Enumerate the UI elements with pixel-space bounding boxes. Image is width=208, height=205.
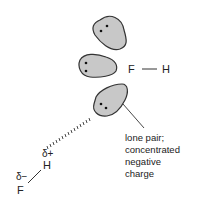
electron-dot bbox=[100, 103, 103, 106]
electron-dot bbox=[100, 30, 103, 33]
annotation-line-3: negative bbox=[125, 156, 161, 167]
lone-pair-middle bbox=[79, 54, 117, 77]
lone-pair-top bbox=[93, 16, 126, 49]
electron-dot bbox=[106, 25, 109, 28]
atom-f-bottom: F bbox=[17, 184, 24, 196]
hydrogen-bond-diagram: F H δ+ H δ− F lone pair; concentrated ne… bbox=[0, 0, 208, 205]
electron-dot bbox=[85, 70, 88, 73]
atom-f-top: F bbox=[128, 63, 135, 75]
annotation-line-1: lone pair; bbox=[125, 132, 164, 143]
lone-pair-bottom bbox=[94, 84, 128, 116]
atom-h-top: H bbox=[162, 63, 170, 75]
electron-dot bbox=[85, 62, 88, 65]
diagram-svg: F H δ+ H δ− F lone pair; concentrated ne… bbox=[0, 0, 208, 205]
delta-minus-label: δ− bbox=[16, 171, 28, 182]
delta-plus-label: δ+ bbox=[42, 148, 54, 159]
atom-h-bottom: H bbox=[43, 159, 51, 171]
annotation-leader-line bbox=[123, 104, 144, 128]
annotation-line-2: concentrated bbox=[125, 144, 180, 155]
electron-dot bbox=[105, 107, 108, 110]
hydrogen-bond-dashes bbox=[47, 118, 90, 149]
fh-bond-line-bottom bbox=[28, 170, 41, 183]
annotation-line-4: charge bbox=[125, 168, 154, 179]
